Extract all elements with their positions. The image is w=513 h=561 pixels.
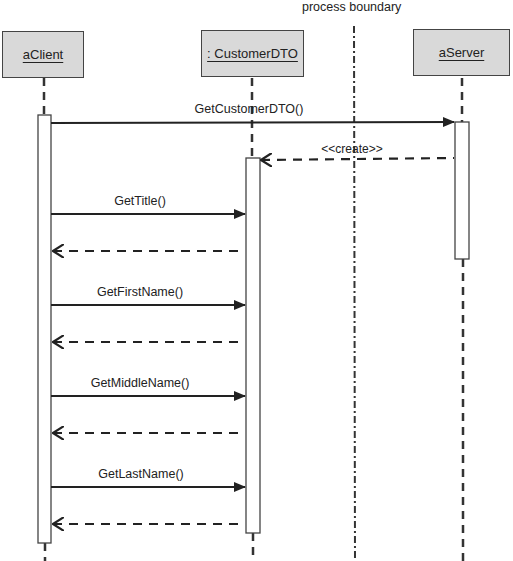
- activation-server: [455, 122, 469, 259]
- message-label-getfirstname: GetFirstName(): [97, 285, 183, 299]
- participant-label: : CustomerDTO: [207, 46, 298, 61]
- participant-customerdto: : CustomerDTO: [201, 30, 304, 77]
- participant-label: aServer: [439, 45, 485, 60]
- message-label-getlastname: GetLastName(): [98, 467, 183, 481]
- message-label-getmiddlename: GetMiddleName(): [91, 376, 190, 390]
- message-arrow-getcustomerdto: [51, 122, 454, 123]
- message-label-gettitle: GetTitle(): [114, 194, 166, 208]
- participant-aserver: aServer: [413, 29, 510, 76]
- process-boundary-label: process boundary: [302, 0, 401, 14]
- message-arrow-create: [261, 158, 454, 160]
- activation-dto: [246, 158, 260, 533]
- message-label-create: <<create>>: [321, 142, 382, 156]
- message-label-getcustomerdto: GetCustomerDTO(): [195, 102, 304, 116]
- participant-aclient: aClient: [2, 31, 84, 78]
- sequence-diagram-lines: [0, 0, 513, 561]
- participant-label: aClient: [23, 47, 63, 62]
- process-boundary-line: [354, 26, 355, 561]
- activation-client: [38, 115, 51, 543]
